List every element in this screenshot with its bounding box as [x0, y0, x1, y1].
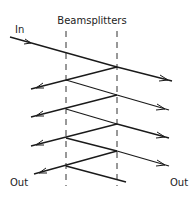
input-label: In	[15, 24, 24, 35]
output-left-label: Out	[10, 177, 28, 188]
input-beam	[10, 37, 117, 67]
beamsplitter-diagram: Beamsplitters In Out Out	[0, 0, 190, 199]
internal-beam-2	[66, 109, 117, 124]
transmitted-beam-2	[117, 95, 169, 110]
reflected-beam-2	[31, 95, 117, 117]
internal-beam-1	[66, 80, 117, 95]
reflected-beam-1	[31, 67, 117, 89]
reflected-beam-3	[31, 124, 117, 146]
beamsplitters-title: Beamsplitters	[57, 15, 126, 26]
transmitted-beam-4	[117, 151, 169, 166]
reflected-beam-4	[34, 151, 117, 174]
internal-beam-3	[66, 138, 117, 151]
transmitted-beam-3	[117, 124, 169, 138]
output-right-label: Out	[170, 177, 188, 188]
transmitted-beam-1	[117, 67, 172, 81]
